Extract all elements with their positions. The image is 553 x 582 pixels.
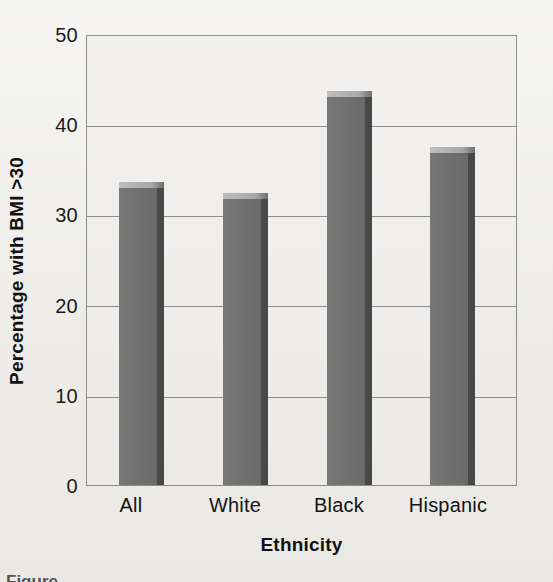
bar-front-face xyxy=(430,153,468,485)
bar-side-face xyxy=(468,153,475,485)
gridline-40 xyxy=(87,126,516,127)
bar-side-face xyxy=(365,97,372,485)
bar-side-face xyxy=(157,188,164,485)
figure-caption-fragment: Figure xyxy=(6,572,206,582)
x-tick-label-hispanic: Hispanic xyxy=(388,494,508,517)
y-axis-title: Percentage with BMI >30 xyxy=(6,106,28,436)
bar-front-face xyxy=(119,188,157,485)
y-tick-label-0: 0 xyxy=(0,475,78,498)
bar-all[interactable] xyxy=(119,182,164,485)
bar-side-face xyxy=(261,199,268,485)
bar-front-face xyxy=(223,199,261,485)
bar-white[interactable] xyxy=(223,193,268,485)
x-tick-label-all: All xyxy=(86,494,176,517)
bar-chart-figure: 50 40 30 20 10 0 Percentage with BMI >30 xyxy=(0,0,553,582)
plot-area xyxy=(86,35,517,486)
x-axis-title: Ethnicity xyxy=(86,534,517,556)
bar-hispanic[interactable] xyxy=(430,147,475,485)
bar-front-face xyxy=(327,97,365,485)
bar-black[interactable] xyxy=(327,91,372,485)
x-tick-label-white: White xyxy=(190,494,280,517)
y-tick-label-50: 50 xyxy=(0,24,78,47)
x-tick-label-black: Black xyxy=(294,494,384,517)
